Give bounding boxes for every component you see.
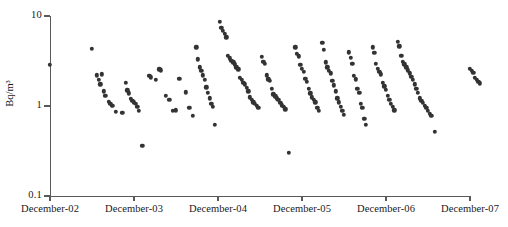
data-point <box>103 94 107 98</box>
data-point <box>379 72 383 76</box>
data-point <box>256 106 260 110</box>
data-point <box>392 108 396 112</box>
data-point <box>259 55 263 59</box>
data-point <box>206 91 210 95</box>
data-point <box>322 48 326 52</box>
data-point <box>399 54 403 58</box>
data-point <box>478 81 482 85</box>
data-point <box>370 45 374 49</box>
data-point <box>224 35 228 39</box>
data-point <box>433 129 437 133</box>
data-point <box>191 114 195 118</box>
data-point <box>204 85 208 89</box>
data-point <box>333 89 337 93</box>
data-point <box>362 117 366 121</box>
data-point <box>212 122 216 126</box>
data-point <box>384 87 388 91</box>
data-point <box>286 151 290 155</box>
data-point <box>140 144 144 148</box>
data-point <box>174 108 178 112</box>
data-point <box>283 107 287 111</box>
data-point <box>301 70 305 74</box>
data-point <box>137 109 141 113</box>
data-point <box>360 106 364 110</box>
data-point <box>187 106 191 110</box>
data-point <box>127 91 131 95</box>
data-point <box>357 91 361 95</box>
data-point <box>149 75 153 79</box>
data-point <box>270 87 274 91</box>
scatter-chart: 1010.1 December-02December-03December-04… <box>0 0 508 227</box>
data-point <box>177 77 181 81</box>
data-point <box>320 41 324 45</box>
data-point <box>296 54 300 58</box>
data-point <box>323 60 327 64</box>
data-point <box>48 63 52 67</box>
data-point <box>347 50 351 54</box>
data-point <box>211 105 215 109</box>
data-point <box>123 81 127 85</box>
data-point <box>416 91 420 95</box>
data-point <box>217 20 221 24</box>
data-point <box>184 90 188 94</box>
data-point <box>293 45 297 49</box>
data-point <box>120 111 124 115</box>
data-point <box>354 77 358 81</box>
data-point <box>236 67 240 71</box>
data-point <box>364 122 368 126</box>
data-point <box>330 78 334 82</box>
data-point <box>313 100 317 104</box>
data-point <box>113 110 117 114</box>
data-point <box>328 71 332 75</box>
data-point <box>342 113 346 117</box>
data-point <box>349 55 353 59</box>
data-point <box>100 72 104 76</box>
plot-area <box>0 0 508 227</box>
data-point <box>396 39 400 43</box>
data-point <box>263 62 267 66</box>
data-point <box>268 79 272 83</box>
data-point <box>305 80 309 84</box>
data-point <box>194 45 198 49</box>
data-point <box>317 109 321 113</box>
data-point <box>202 78 206 82</box>
data-point <box>397 44 401 48</box>
data-point <box>90 47 94 51</box>
data-point <box>207 96 211 100</box>
data-point <box>374 62 378 66</box>
data-point <box>429 114 433 118</box>
data-point <box>196 57 200 61</box>
data-point <box>154 78 158 82</box>
data-point <box>110 104 114 108</box>
data-point <box>372 51 376 55</box>
data-point <box>350 62 354 66</box>
data-point <box>412 82 416 86</box>
data-point <box>471 70 475 74</box>
data-point <box>167 97 171 101</box>
data-point <box>98 82 102 86</box>
data-point <box>332 83 336 87</box>
data-point <box>246 89 250 93</box>
data-point <box>159 68 163 72</box>
